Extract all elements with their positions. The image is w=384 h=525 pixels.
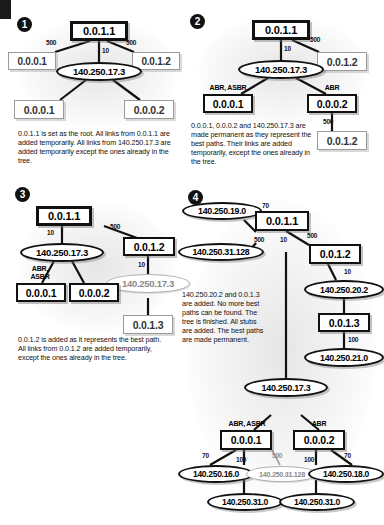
node-p4-n210[interactable]: 140.250.21.0 xyxy=(304,348,384,367)
node-label: 140.250.21.0 xyxy=(320,353,368,363)
node-label: 0.0.1.1 xyxy=(83,25,115,37)
node-p2-root[interactable]: 0.0.1.1 xyxy=(252,20,310,40)
tag-p2-abr: ABR xyxy=(307,84,357,92)
cost-p2-1: 10 xyxy=(284,45,291,52)
tag-p4-abr-asbr: ABR, ASBR xyxy=(211,420,283,428)
node-label: 0.0.1.3 xyxy=(133,319,164,331)
node-label: 0.0.0.2 xyxy=(304,434,335,446)
node-label: 0.0.0.2 xyxy=(79,287,110,299)
cost-p4-6: 70 xyxy=(202,452,209,459)
panel-1: 1 0.0.1.1 0.0.0.1 0.0.1.2 140.250.17.3 0… xyxy=(0,0,186,180)
tag-p3-abr: ABR, xyxy=(16,265,64,273)
node-p4-c13[interactable]: 0.0.1.3 xyxy=(318,313,370,332)
cost-p4-0: 70 xyxy=(262,202,269,209)
node-label: 0.0.0.2 xyxy=(134,104,165,116)
node-p1-a[interactable]: 0.0.0.1 xyxy=(8,52,56,70)
node-label: 0.0.1.1 xyxy=(265,24,297,36)
cost-p4-10: 70 xyxy=(344,452,351,459)
node-p4-n310a[interactable]: 140.250.31.0 xyxy=(207,493,283,511)
node-p4-b[interactable]: 0.0.1.2 xyxy=(309,244,361,264)
node-label: 0.0.0.1 xyxy=(17,56,46,67)
node-label: 0.0.1.2 xyxy=(327,135,358,147)
node-p4-n31a[interactable]: 140.250.31.128 xyxy=(178,243,264,261)
cost-p4-4: 10 xyxy=(344,268,351,275)
panel-1-caption: 0.0.1.1 is set as the root. All links fr… xyxy=(18,129,178,165)
node-p4-n202[interactable]: 140.250.20.2 xyxy=(304,280,384,299)
node-p4-root[interactable]: 0.0.1.1 xyxy=(255,211,309,231)
node-label: 140.250.31.0 xyxy=(222,497,268,507)
node-p2-e[interactable]: 0.0.1.2 xyxy=(317,131,367,150)
node-p1-net[interactable]: 140.250.17.3 xyxy=(56,62,142,81)
panel-3-caption: 0.0.1.2 is added as it represents the be… xyxy=(18,335,170,362)
node-label: 0.0.0.1 xyxy=(26,287,57,299)
node-p3-e[interactable]: 0.0.1.3 xyxy=(123,315,173,334)
node-label: 0.0.1.1 xyxy=(266,215,298,227)
node-label: 140.250.20.2 xyxy=(320,285,368,295)
node-p2-d[interactable]: 0.0.0.2 xyxy=(307,94,357,113)
cost-p4-8: 500 xyxy=(272,452,282,459)
cost-p3-0: 500 xyxy=(110,223,120,230)
node-p3-b[interactable]: 0.0.1.2 xyxy=(123,237,175,256)
node-label: 140.250.17.3 xyxy=(36,247,88,258)
tag-p3-asbr: ASBR xyxy=(16,273,64,281)
panel-4: 4 140.250.19.0 0.0.1.1 140 xyxy=(176,180,384,525)
panel-4-caption: 140.250.20.2 and 0.0.1.3 are added. No m… xyxy=(182,290,268,345)
tag-p4-abr: ABR xyxy=(293,420,345,428)
node-p4-n310b[interactable]: 140.250.31.0 xyxy=(279,493,355,511)
node-p3-net[interactable]: 140.250.17.3 xyxy=(20,243,104,262)
node-label: 0.0.0.1 xyxy=(231,434,262,446)
node-label: 0.0.0.1 xyxy=(24,104,55,116)
node-p4-n180[interactable]: 140.250.18.0 xyxy=(308,465,384,483)
node-label: 0.0.1.3 xyxy=(329,317,360,329)
cost-p2-0: 500 xyxy=(310,36,320,43)
node-p4-n173[interactable]: 140.250.17.3 xyxy=(244,378,328,397)
node-p2-net[interactable]: 140.250.17.3 xyxy=(238,60,324,79)
node-label: 140.250.31.0 xyxy=(294,497,340,507)
tag-p2-abr-asbr: ABR, ASBR xyxy=(194,84,262,92)
node-label: 0.0.0.1 xyxy=(213,98,244,110)
node-p4-n190[interactable]: 140.250.19.0 xyxy=(182,202,262,220)
node-p2-b[interactable]: 0.0.1.2 xyxy=(317,52,367,71)
cost-p4-9: 100 xyxy=(304,456,314,463)
cost-p2-2: 500 xyxy=(323,118,333,125)
node-label: 0.0.1.2 xyxy=(134,241,165,253)
cost-p3-2: 10 xyxy=(138,261,145,268)
node-label: 0.0.1.2 xyxy=(327,56,358,68)
node-p2-c[interactable]: 0.0.0.1 xyxy=(203,94,253,113)
node-label: 140.250.19.0 xyxy=(198,206,246,216)
node-p3-root[interactable]: 0.0.1.1 xyxy=(36,206,92,226)
node-p1-root[interactable]: 0.0.1.1 xyxy=(70,21,128,41)
node-label: 140.250.16.0 xyxy=(193,469,239,479)
cost-p4-3: 500 xyxy=(307,232,317,239)
node-label: 0.0.1.2 xyxy=(320,248,351,260)
node-label: 0.0.0.2 xyxy=(317,98,348,110)
cost-p3-1: 10 xyxy=(47,229,54,236)
node-p3-c[interactable]: 0.0.0.1 xyxy=(16,283,66,302)
cost-p1-1: 10 xyxy=(102,47,109,54)
cost-p1-2: 500 xyxy=(126,39,136,46)
node-p4-n160[interactable]: 140.250.16.0 xyxy=(178,465,254,483)
node-label: 140.250.17.3 xyxy=(73,66,125,77)
node-label: 0.0.1.1 xyxy=(48,210,80,222)
panel-3: 3 0.0.1.1 0.0.1.2 140.250.17.3 140.250.1… xyxy=(0,180,186,370)
cost-p4-5: 100 xyxy=(348,336,358,343)
node-label: 140.250.17.3 xyxy=(122,278,174,289)
node-label: 140.250.17.3 xyxy=(255,64,307,75)
cost-p4-2: 10 xyxy=(280,236,287,243)
cost-p4-7: 100 xyxy=(236,456,246,463)
cost-p1-0: 500 xyxy=(46,39,56,46)
node-p1-d[interactable]: 0.0.0.2 xyxy=(124,100,174,119)
node-p4-r001[interactable]: 0.0.0.1 xyxy=(220,430,272,450)
node-p3-d[interactable]: 0.0.0.2 xyxy=(69,283,119,302)
node-p4-r002[interactable]: 0.0.0.2 xyxy=(293,430,345,450)
node-label: 0.0.1.2 xyxy=(141,56,170,67)
node-label: 140.250.31.128 xyxy=(259,470,305,479)
node-label: 140.250.31.128 xyxy=(193,247,250,257)
node-label: 140.250.18.0 xyxy=(323,469,369,479)
cost-p4-1: 500 xyxy=(254,236,264,243)
panel-2-caption: 0.0.0.1, 0.0.0.2 and 140.250.17.3 are ma… xyxy=(191,121,313,166)
panel-2: 2 0.0.1.1 0.0.1.2 140.250.17.3 0.0.0.1 0… xyxy=(186,0,384,180)
node-p1-c[interactable]: 0.0.0.1 xyxy=(14,100,64,119)
node-label: 140.250.17.3 xyxy=(262,383,311,393)
